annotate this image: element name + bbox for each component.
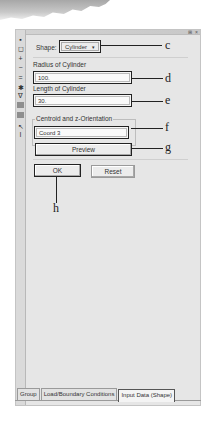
preview-button[interactable]: Preview	[35, 143, 132, 156]
centroid-label: Centroid and z-Orientation	[35, 115, 113, 122]
torn-paper-decoration	[0, 0, 110, 20]
length-value[interactable]: 30.	[35, 96, 130, 105]
tab-input-data-shape[interactable]: Input Data (Shape)	[118, 389, 175, 402]
node-icon[interactable]: ✱	[17, 84, 24, 91]
tab-load-boundary-conditions[interactable]: Load/Boundary Conditions	[41, 388, 118, 400]
vertical-toolbar: ▪ ◻ + − = ✱ ∇ ↖ I	[16, 30, 26, 405]
select-icon[interactable]: ▪	[17, 36, 24, 43]
add-icon[interactable]: +	[17, 55, 24, 62]
radius-label: Radius of Cylinder	[33, 61, 86, 68]
box-select-icon[interactable]: ◻	[17, 45, 24, 52]
length-label: Length of Cylinder	[33, 85, 86, 92]
callout-line-h	[56, 177, 57, 203]
centroid-value[interactable]: Coord 3	[36, 128, 127, 137]
callout-f: f	[165, 120, 169, 135]
form-content: Shape: Cylinder ▾ Radius of Cylinder 100…	[26, 34, 200, 405]
equals-icon[interactable]: =	[17, 74, 24, 81]
callout-c: c	[165, 38, 170, 53]
reset-button[interactable]: Reset	[91, 165, 135, 178]
input-data-panel: ⊞ × ▪ ◻ + − = ✱ ∇ ↖ I Shape: Cylinder ▾ …	[15, 29, 201, 406]
divider	[33, 159, 188, 160]
tab-group[interactable]: Group	[17, 388, 40, 400]
callout-line-g	[132, 148, 163, 149]
callout-line-c	[100, 45, 162, 46]
centroid-input[interactable]: Coord 3	[34, 126, 129, 139]
panel-tabs: Group Load/Boundary Conditions Input Dat…	[17, 388, 176, 400]
block-icon[interactable]	[17, 112, 24, 118]
callout-line-d	[131, 78, 163, 79]
pointer-icon[interactable]: ↖	[17, 123, 24, 130]
minus-icon[interactable]: −	[17, 64, 24, 71]
callout-line-e	[131, 101, 163, 102]
text-icon[interactable]: I	[17, 131, 24, 138]
radius-input[interactable]: 100.	[33, 71, 132, 84]
shape-dropdown[interactable]: Cylinder ▾	[59, 40, 101, 53]
callout-g: g	[165, 140, 171, 155]
chevron-down-icon: ▾	[92, 43, 95, 52]
block-icon[interactable]	[17, 102, 24, 108]
ok-button[interactable]: OK	[34, 164, 81, 177]
shape-label: Shape:	[36, 44, 57, 51]
length-input[interactable]: 30.	[33, 94, 132, 107]
shape-value: Cylinder	[65, 44, 87, 50]
callout-d: d	[165, 71, 171, 86]
shape-dropdown-value[interactable]: Cylinder ▾	[61, 42, 99, 51]
callout-line-f	[131, 128, 163, 129]
filter-icon[interactable]: ∇	[17, 92, 24, 99]
divider	[33, 57, 188, 58]
callout-e: e	[165, 93, 170, 108]
callout-h: h	[53, 201, 59, 216]
radius-value[interactable]: 100.	[35, 73, 130, 82]
